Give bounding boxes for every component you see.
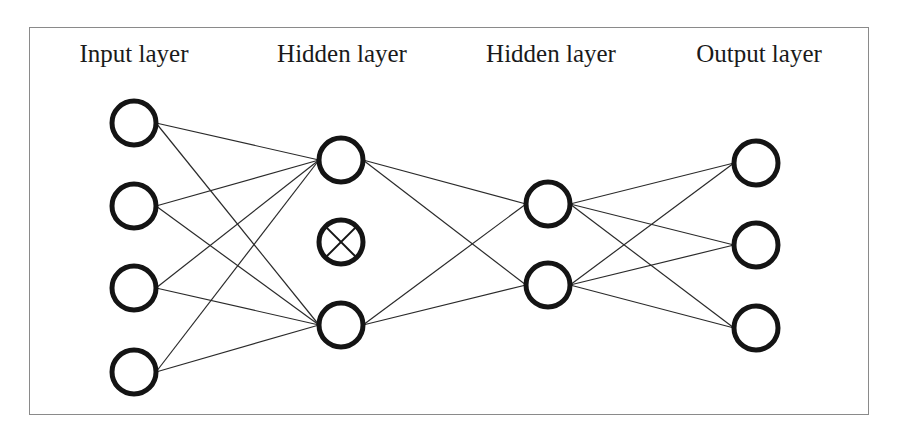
connection-edge [570, 245, 734, 285]
hidden1-neuron [319, 303, 363, 347]
connection-edge [570, 163, 734, 204]
connection-edge [156, 123, 319, 160]
network-graph [0, 0, 900, 443]
connection-edge [156, 160, 319, 372]
output-neuron [734, 141, 778, 185]
hidden1-neuron [319, 138, 363, 182]
input-neuron [112, 101, 156, 145]
hidden2-neuron [526, 182, 570, 226]
edges [156, 123, 734, 372]
input-neuron [112, 266, 156, 310]
connection-edge [570, 285, 734, 328]
connection-edge [363, 285, 526, 325]
connection-edge [156, 160, 319, 206]
input-neuron [112, 350, 156, 394]
hidden2-neuron [526, 263, 570, 307]
output-neuron [734, 223, 778, 267]
input-neuron [112, 184, 156, 228]
connection-edge [156, 325, 319, 372]
connection-edge [363, 160, 526, 204]
output-neuron [734, 306, 778, 350]
